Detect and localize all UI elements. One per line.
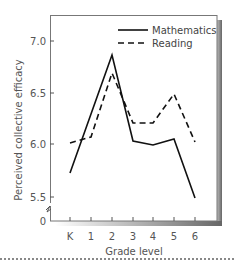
series-mathematics-line: [70, 55, 195, 198]
x-tick-label: 6: [192, 231, 198, 242]
y-axis-title: Perceived collective efficacy: [13, 59, 24, 200]
dotted-divider: [0, 258, 234, 260]
x-axis: [70, 217, 195, 221]
legend-label-reading: Reading: [152, 38, 193, 49]
frame-shadow-right: [217, 20, 222, 226]
line-chart: 7.0 6.5 6.0 5.5 0 K 1 2 3 4 5 6 Grade le…: [0, 0, 234, 269]
legend-label-mathematics: Mathematics: [152, 25, 216, 36]
x-tick-label: K: [67, 231, 74, 242]
y-tick-label: 6.0: [30, 139, 46, 150]
legend: Mathematics Reading: [118, 25, 216, 49]
x-tick-label: 4: [150, 231, 156, 242]
frame-shadow-bottom: [55, 221, 222, 226]
x-tick-label: 5: [171, 231, 177, 242]
x-tick-label: 2: [109, 231, 115, 242]
series-reading-line: [70, 73, 195, 143]
y-tick-label: 6.5: [30, 88, 46, 99]
y-tick-label: 0: [40, 216, 46, 227]
x-tick-label: 1: [88, 231, 94, 242]
x-tick-label: 3: [130, 231, 136, 242]
y-tick-label: 7.0: [30, 36, 46, 47]
x-axis-title: Grade level: [105, 246, 162, 257]
y-tick-label: 5.5: [30, 192, 46, 203]
